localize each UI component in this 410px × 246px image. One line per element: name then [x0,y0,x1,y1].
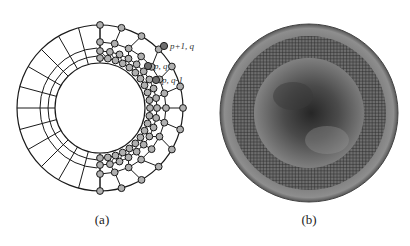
figure-panel-b: (b) [205,0,410,246]
caption-b: (b) [289,212,329,228]
disc-mesh-image [205,0,410,246]
node-label: p, q-1 [161,75,183,85]
annular-mesh-diagram: p+1, qp, qp, q-1 [0,0,205,246]
node-label: p+1, q [169,41,195,51]
caption-a: (a) [82,212,122,228]
node-label: p, q [153,61,168,71]
figure-panel-a: p+1, qp, qp, q-1 (a) [0,0,205,246]
